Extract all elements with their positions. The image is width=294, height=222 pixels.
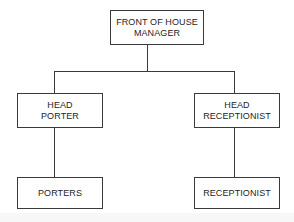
node-receptionist: RECEPTIONIST [194, 177, 280, 209]
node-label-line: HEAD [224, 100, 249, 111]
connector-head-porter-to-porters [54, 128, 55, 177]
node-label-line: MANAGER [134, 28, 180, 39]
connector-head-receptionist-to-receptionist [234, 128, 235, 177]
scan-edge-strip [0, 213, 294, 222]
org-chart-canvas: FRONT OF HOUSE MANAGER HEAD PORTER HEAD … [0, 0, 294, 222]
node-porters: PORTERS [17, 177, 103, 209]
node-front-of-house-manager: FRONT OF HOUSE MANAGER [110, 10, 204, 45]
node-label-line: PORTER [41, 111, 79, 122]
node-head-receptionist: HEAD RECEPTIONIST [194, 93, 280, 128]
node-head-porter: HEAD PORTER [17, 93, 103, 128]
connector-branch-bar [54, 71, 235, 72]
connector-drop-head-receptionist [234, 71, 235, 93]
node-label-line: PORTERS [38, 188, 82, 199]
node-label-line: RECEPTIONIST [203, 188, 271, 199]
node-label-line: FRONT OF HOUSE [116, 17, 198, 28]
connector-drop-head-porter [54, 71, 55, 93]
connector-root-stem [147, 45, 148, 71]
node-label-line: RECEPTIONIST [203, 111, 271, 122]
node-label-line: HEAD [47, 100, 72, 111]
